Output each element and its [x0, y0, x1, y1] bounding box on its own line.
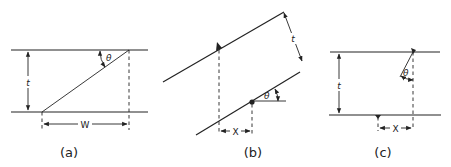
offset-label: X	[232, 127, 238, 137]
offset-label: X	[392, 124, 398, 134]
panel-a-caption: (a)	[60, 145, 78, 160]
angle-arc	[100, 51, 105, 67]
panel-b: θ X t (b)	[163, 12, 302, 160]
geometry-figure: t W θ (a) θ X t (b)	[0, 0, 451, 167]
panel-c-caption: (c)	[374, 145, 391, 160]
dot-marker-icon	[249, 99, 254, 104]
thickness-label: t	[291, 34, 295, 44]
angle-arc	[275, 89, 278, 101]
panel-b-caption: (b)	[244, 145, 262, 160]
triangle-marker-icon	[411, 48, 416, 54]
thickness-label: t	[26, 78, 30, 88]
angle-label: θ	[264, 91, 270, 101]
lower-inclined-line	[196, 72, 300, 135]
panel-c: t θ X (c)	[329, 48, 441, 160]
angle-label: θ	[106, 53, 112, 63]
panel-a: t W θ (a)	[11, 50, 148, 160]
diagonal-path-line	[42, 50, 129, 112]
thickness-label: t	[337, 81, 341, 91]
upper-inclined-line	[163, 12, 284, 82]
angle-label: θ	[403, 68, 409, 78]
width-label: W	[81, 120, 90, 130]
